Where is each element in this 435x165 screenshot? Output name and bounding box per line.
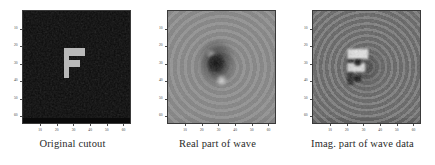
ytick-mark bbox=[20, 29, 22, 30]
ytick-label: 60 bbox=[304, 114, 308, 118]
axes-original-cutout: 10 20 30 40 50 60 10 20 30 40 50 60 bbox=[22, 10, 131, 124]
xtick-label: 20 bbox=[200, 129, 204, 133]
xtick-label: 50 bbox=[105, 129, 109, 133]
image-original-cutout bbox=[22, 10, 131, 124]
ytick-mark bbox=[165, 64, 167, 65]
ytick-mark bbox=[20, 99, 22, 100]
xtick-mark bbox=[90, 124, 91, 126]
letter-f-top-arm bbox=[64, 48, 85, 56]
xtick-label: 50 bbox=[395, 129, 399, 133]
xtick-label: 60 bbox=[267, 129, 271, 133]
xtick-mark bbox=[123, 124, 124, 126]
xtick-label: 30 bbox=[362, 129, 366, 133]
xtick-mark bbox=[202, 124, 203, 126]
panel-real-part-of-wave: 10 20 30 40 50 60 10 20 30 40 50 60 Real… bbox=[145, 0, 290, 165]
ytick-label: 40 bbox=[304, 79, 308, 83]
image-imag-part-of-wave-data bbox=[312, 10, 421, 124]
ytick-mark bbox=[310, 99, 312, 100]
ytick-label: 30 bbox=[159, 62, 163, 66]
letter-f-glyph bbox=[64, 48, 85, 78]
xtick-label: 40 bbox=[233, 129, 237, 133]
ytick-label: 10 bbox=[159, 27, 163, 31]
xtick-mark bbox=[235, 124, 236, 126]
ytick-label: 30 bbox=[14, 62, 18, 66]
xtick-label: 10 bbox=[183, 129, 187, 133]
xtick-label: 30 bbox=[72, 129, 76, 133]
xtick-mark bbox=[380, 124, 381, 126]
ytick-label: 30 bbox=[304, 62, 308, 66]
panel-caption-real-part-of-wave: Real part of wave bbox=[145, 138, 290, 149]
letter-f-middle-arm bbox=[64, 60, 80, 66]
ytick-mark bbox=[310, 46, 312, 47]
ytick-label: 20 bbox=[159, 45, 163, 49]
xtick-label: 10 bbox=[38, 129, 42, 133]
imag-f-top-arm bbox=[348, 49, 369, 59]
xtick-label: 60 bbox=[122, 129, 126, 133]
ytick-label: 50 bbox=[14, 97, 18, 101]
ytick-mark bbox=[20, 64, 22, 65]
xtick-mark bbox=[40, 124, 41, 126]
ytick-mark bbox=[310, 81, 312, 82]
panel-original-cutout: 10 20 30 40 50 60 10 20 30 40 50 60 Orig… bbox=[0, 0, 145, 165]
ytick-label: 10 bbox=[14, 27, 18, 31]
xtick-mark bbox=[347, 124, 348, 126]
ytick-mark bbox=[310, 29, 312, 30]
xtick-label: 60 bbox=[412, 129, 416, 133]
real-dark-core bbox=[208, 54, 224, 73]
ytick-mark bbox=[310, 116, 312, 117]
ytick-label: 40 bbox=[159, 79, 163, 83]
xtick-label: 40 bbox=[88, 129, 92, 133]
xtick-label: 30 bbox=[217, 129, 221, 133]
xtick-mark bbox=[330, 124, 331, 126]
xtick-mark bbox=[252, 124, 253, 126]
ytick-mark bbox=[20, 46, 22, 47]
xtick-mark bbox=[268, 124, 269, 126]
xtick-mark bbox=[107, 124, 108, 126]
panel-caption-original-cutout: Original cutout bbox=[0, 138, 145, 149]
axes-imag-part-of-wave-data: 10 20 30 40 50 60 10 20 30 40 50 60 bbox=[312, 10, 421, 124]
imag-f-pattern bbox=[346, 48, 370, 86]
xtick-label: 50 bbox=[250, 129, 254, 133]
xtick-label: 20 bbox=[55, 129, 59, 133]
ytick-label: 40 bbox=[14, 79, 18, 83]
ytick-label: 60 bbox=[14, 114, 18, 118]
xtick-mark bbox=[185, 124, 186, 126]
ytick-mark bbox=[20, 81, 22, 82]
xtick-mark bbox=[57, 124, 58, 126]
xtick-label: 20 bbox=[345, 129, 349, 133]
ytick-mark bbox=[165, 81, 167, 82]
xtick-mark bbox=[73, 124, 74, 126]
ytick-label: 50 bbox=[159, 97, 163, 101]
ytick-mark bbox=[20, 116, 22, 117]
ytick-mark bbox=[165, 99, 167, 100]
axes-real-part-of-wave: 10 20 30 40 50 60 10 20 30 40 50 60 bbox=[167, 10, 276, 124]
xtick-mark bbox=[363, 124, 364, 126]
ytick-mark bbox=[165, 29, 167, 30]
ytick-label: 50 bbox=[304, 97, 308, 101]
xtick-label: 10 bbox=[328, 129, 332, 133]
imag-dark-blob-lower bbox=[353, 75, 361, 83]
figure-root: 10 20 30 40 50 60 10 20 30 40 50 60 Orig… bbox=[0, 0, 435, 165]
xtick-mark bbox=[397, 124, 398, 126]
image-real-part-of-wave bbox=[167, 10, 276, 124]
ytick-label: 10 bbox=[304, 27, 308, 31]
ytick-mark bbox=[165, 46, 167, 47]
xtick-mark bbox=[413, 124, 414, 126]
ytick-label: 20 bbox=[14, 45, 18, 49]
ytick-label: 60 bbox=[159, 114, 163, 118]
real-bright-lobe-lower bbox=[215, 75, 229, 85]
panel-caption-imag-part-of-wave-data: Imag. part of wave data bbox=[290, 138, 435, 149]
xtick-label: 40 bbox=[378, 129, 382, 133]
xtick-mark bbox=[218, 124, 219, 126]
ytick-label: 20 bbox=[304, 45, 308, 49]
ytick-mark bbox=[310, 64, 312, 65]
panel-imag-part-of-wave-data: 10 20 30 40 50 60 10 20 30 40 50 60 Imag… bbox=[290, 0, 435, 165]
ytick-mark bbox=[165, 116, 167, 117]
imag-dark-blob-upper bbox=[354, 59, 361, 65]
